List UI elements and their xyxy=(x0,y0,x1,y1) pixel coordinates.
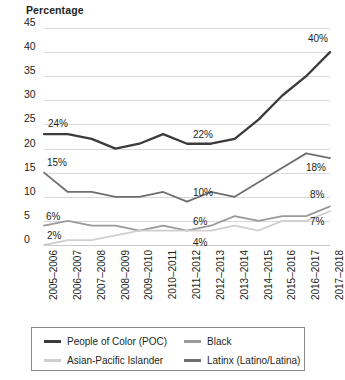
x-axis-tick-label: 2012–2013 xyxy=(215,250,226,300)
legend-label: People of Color (POC) xyxy=(67,336,167,347)
legend-label: Asian-Pacific Islander xyxy=(67,355,163,366)
data-point-label: 6% xyxy=(46,211,60,222)
data-point-label: 6% xyxy=(193,216,207,227)
legend-label: Black xyxy=(207,336,231,347)
y-axis-title: Percentage xyxy=(26,4,84,16)
x-axis-tick-label: 2014–2015 xyxy=(263,250,274,300)
x-axis-tick-label: 2009–2010 xyxy=(143,250,154,300)
x-axis-tick-label: 2011–2012 xyxy=(191,250,202,299)
legend-swatch xyxy=(44,359,61,362)
data-point-label: 7% xyxy=(310,216,324,227)
legend-swatch xyxy=(184,340,201,343)
x-axis-labels: 2005–20062006–20072007–20082008–20092009… xyxy=(44,250,330,312)
data-point-label: 22% xyxy=(193,129,213,140)
x-axis-tick-label: 2008–2009 xyxy=(120,250,131,300)
series-line xyxy=(44,52,330,148)
data-point-label: 18% xyxy=(306,162,326,173)
data-point-label: 15% xyxy=(47,157,67,168)
series-line xyxy=(44,206,330,230)
data-point-label: 10% xyxy=(193,187,213,198)
gridline xyxy=(44,245,330,246)
legend-item[interactable]: Latinx (Latino/Latina) xyxy=(184,351,304,370)
x-axis-tick-label: 2007–2008 xyxy=(96,250,107,300)
x-axis-tick-label: 2013–2014 xyxy=(239,250,250,300)
legend-swatch xyxy=(44,340,61,343)
legend-swatch xyxy=(184,359,201,362)
y-axis-tick-label: 45 xyxy=(24,16,60,28)
legend-item[interactable]: People of Color (POC) xyxy=(32,332,184,351)
legend-label: Latinx (Latino/Latina) xyxy=(207,355,300,366)
series-lines xyxy=(44,28,330,245)
x-axis-tick-label: 2006–2007 xyxy=(72,250,83,300)
legend-item[interactable]: Black xyxy=(184,332,304,351)
x-axis-tick-label: 2015–2016 xyxy=(286,250,297,300)
data-point-label: 40% xyxy=(308,33,328,44)
x-axis-tick-label: 2016–2017 xyxy=(310,250,321,300)
data-point-label: 4% xyxy=(193,237,207,248)
data-point-label: 8% xyxy=(310,189,324,200)
data-point-label: 2% xyxy=(47,230,61,241)
x-axis-tick-label: 2005–2006 xyxy=(48,250,59,300)
x-axis-tick-label: 2010–2011 xyxy=(167,250,178,299)
x-axis-tick-label: 2017–2018 xyxy=(334,250,345,300)
legend-item[interactable]: Asian-Pacific Islander xyxy=(32,351,184,370)
chart-legend: People of Color (POC)BlackAsian-Pacific … xyxy=(31,327,305,371)
data-point-label: 24% xyxy=(48,118,68,129)
series-line xyxy=(44,153,330,201)
